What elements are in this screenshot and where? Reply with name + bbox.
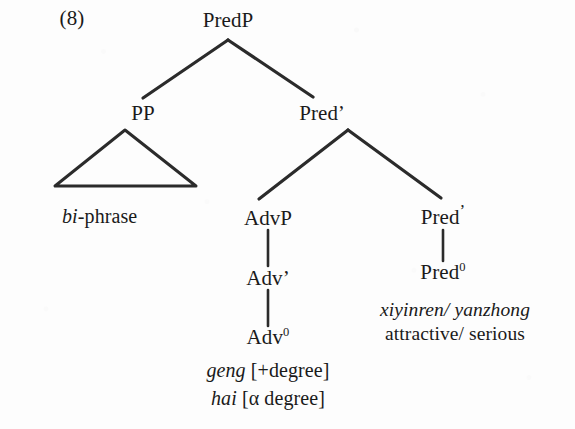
node-pred-bar-lower: Pred’ [421,207,466,228]
node-adv-zero-label: Adv [247,325,283,349]
terminal-geng-italic: geng [206,359,245,381]
terminal-geng: geng [+degree] [206,360,329,380]
gloss-translation: attractive/ serious [385,324,525,344]
node-pred-bar-upper-label: Pred [299,101,338,125]
terminal-bi-italic: bi [62,205,78,227]
syntax-tree-figure: (8) PredP PP Pred’ AdvP Pred’ Adv’ Adv0 … [0,0,575,429]
tree-branch-predp-to-pp [143,40,228,98]
tree-branch-predbar-to-predbar2 [348,130,441,198]
node-advp-label: AdvP [244,206,292,230]
example-number: (8) [60,8,85,29]
node-pred-zero-label: Pred [420,260,459,284]
node-pred-zero: Pred0 [420,262,465,283]
node-adv-bar: Adv’ [246,268,290,289]
superscript-zero: 0 [283,325,289,339]
node-pred-bar-upper: Pred’ [299,103,345,124]
node-advp: AdvP [244,208,292,229]
tree-branch-predp-to-predbar [228,40,313,97]
node-predp-label: PredP [203,8,254,32]
superscript-zero: 0 [459,260,465,274]
terminal-geng-features: [+degree] [246,359,330,381]
node-adv-bar-label: Adv’ [246,266,290,290]
terminal-bi-roman: -phrase [78,205,138,227]
terminal-hai: hai [α degree] [211,388,325,408]
terminal-hai-features: [α degree] [237,387,325,409]
node-predp: PredP [203,10,254,31]
node-adv-zero: Adv0 [247,327,290,348]
node-pp: PP [131,103,155,124]
pp-triangle-icon [55,130,196,186]
node-pred-bar-lower-label: Pred [421,205,460,229]
prime-mark: ’ [338,102,345,124]
terminal-bi-phrase: bi-phrase [62,206,137,226]
prime-mark: ’ [460,201,466,220]
tree-branch-predbar-to-advp [259,130,348,199]
terminal-hai-italic: hai [211,387,237,409]
branch-lines [143,40,443,326]
gloss-romanization: xiyinren/ yanzhong [380,300,530,320]
node-pp-label: PP [131,101,155,125]
